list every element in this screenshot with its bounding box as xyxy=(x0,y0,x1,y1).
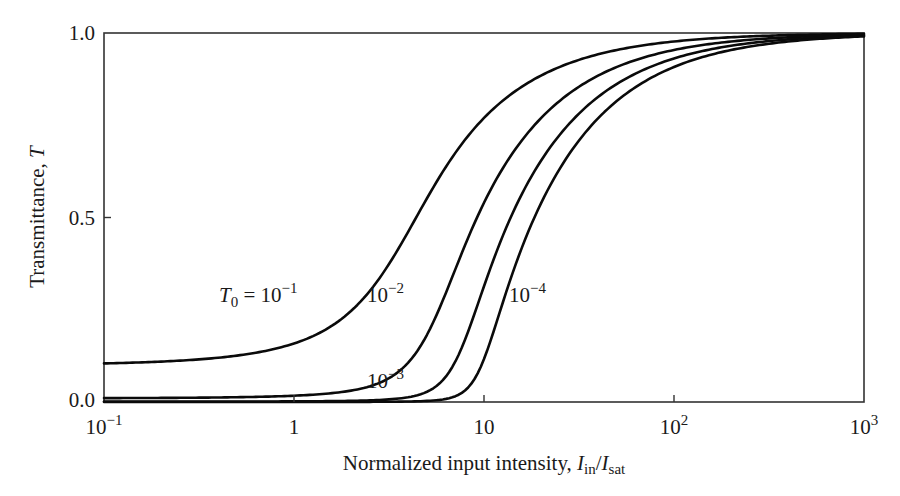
plot-frame xyxy=(104,33,864,402)
curve-annotations: T0 = 10−110−210−310−4 xyxy=(219,280,546,393)
annotation-a1: T0 = 10−1 xyxy=(219,280,298,310)
y-axis-label: Transmittance, T xyxy=(25,145,49,288)
y-tick-label: 0.0 xyxy=(69,388,95,412)
annotation-a2: 10−2 xyxy=(367,280,404,307)
y-tick-label: 1.0 xyxy=(69,21,95,45)
x-tick-label: 102 xyxy=(660,412,689,439)
x-tick-label: 10−1 xyxy=(86,412,123,439)
transmittance-chart: 10−11101021030.00.51.0 Transmittance, T … xyxy=(0,0,900,496)
curves-group xyxy=(104,34,864,402)
annotation-a3: 10−3 xyxy=(367,366,404,393)
annotation-a4: 10−4 xyxy=(509,280,546,307)
y-axis-label-text: Transmittance, xyxy=(25,158,49,288)
curve-series-2 xyxy=(104,35,864,398)
curve-series-4 xyxy=(104,36,864,402)
x-tick-label: 10 xyxy=(474,415,495,439)
x-tick-label: 103 xyxy=(850,412,879,439)
x-axis-label-text: Normalized input intensity, xyxy=(343,451,577,475)
ticks-group: 10−11101021030.00.51.0 xyxy=(69,21,879,439)
curve-series-1 xyxy=(104,34,864,364)
x-axis-label: Normalized input intensity, Iin/Isat xyxy=(343,451,626,477)
x-axis-label-sub-in: in xyxy=(584,461,596,477)
x-tick-label: 1 xyxy=(289,415,300,439)
x-axis-label-sub-sat: sat xyxy=(609,461,626,477)
y-tick-label: 0.5 xyxy=(69,206,95,230)
y-axis-label-symbol: T xyxy=(25,145,49,158)
curve-series-3 xyxy=(104,36,864,402)
